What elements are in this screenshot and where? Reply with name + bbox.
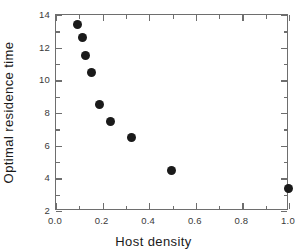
x-axis-tick-label: 0.0 — [48, 215, 62, 226]
x-axis-tick — [219, 206, 220, 210]
x-axis-tick-label: 1.0 — [281, 215, 295, 226]
x-axis-tick — [79, 206, 80, 210]
x-axis-tick-label: 0.8 — [234, 215, 248, 226]
y-axis-tick — [56, 48, 62, 49]
scatter-chart-figure: Optimal residence time Host density 0.00… — [0, 0, 307, 252]
x-axis-tick — [242, 203, 243, 209]
x-axis-tick-top — [289, 15, 290, 21]
y-axis-tick — [56, 129, 60, 130]
x-axis-tick-top — [149, 15, 150, 21]
y-axis-tick — [56, 15, 62, 16]
y-axis-tick-right — [281, 211, 287, 212]
x-axis-tick — [126, 206, 127, 210]
x-axis-tick-top — [173, 15, 174, 19]
y-axis-tick-label: 6 — [26, 139, 50, 150]
y-axis-tick — [56, 146, 62, 147]
y-axis-tick-right — [284, 129, 288, 130]
x-axis-tick — [289, 203, 290, 209]
x-axis-tick-top — [79, 15, 80, 19]
y-axis-tick-right — [281, 15, 287, 16]
y-axis-tick-right — [284, 31, 288, 32]
data-point — [81, 51, 90, 60]
data-point — [95, 100, 104, 109]
y-axis-tick-label: 12 — [26, 41, 50, 52]
y-axis-tick — [56, 113, 62, 114]
y-axis-tick-right — [284, 162, 288, 163]
x-axis-tick — [196, 203, 197, 209]
y-axis-label-container: Optimal residence time — [0, 0, 20, 224]
y-axis-tick-right — [284, 64, 288, 65]
data-point — [106, 117, 115, 126]
x-axis-tick-label: 0.2 — [95, 215, 109, 226]
y-axis-tick-label: 4 — [26, 172, 50, 183]
x-axis-tick — [266, 206, 267, 210]
y-axis-tick — [56, 64, 60, 65]
data-point — [78, 33, 87, 42]
y-axis-tick-right — [281, 113, 287, 114]
y-axis-tick — [56, 211, 62, 212]
y-axis-tick-label: 8 — [26, 107, 50, 118]
x-axis-tick — [56, 203, 57, 209]
plot-area — [55, 14, 288, 210]
x-axis-tick-label: 0.4 — [141, 215, 155, 226]
x-axis-tick-label: 0.6 — [188, 215, 202, 226]
y-axis-tick — [56, 195, 60, 196]
y-axis-tick — [56, 178, 62, 179]
y-axis-tick-right — [284, 97, 288, 98]
x-axis-tick — [149, 203, 150, 209]
y-axis-tick-right — [281, 48, 287, 49]
x-axis-tick-top — [242, 15, 243, 21]
x-axis-tick-top — [219, 15, 220, 19]
y-axis-tick — [56, 80, 62, 81]
y-axis-tick-label: 10 — [26, 74, 50, 85]
x-axis-tick-top — [103, 15, 104, 21]
y-axis-tick-right — [281, 80, 287, 81]
data-point — [284, 184, 293, 193]
x-axis-tick-top — [266, 15, 267, 19]
data-point — [167, 166, 176, 175]
data-point — [73, 20, 82, 29]
x-axis-tick — [103, 203, 104, 209]
y-axis-label: Optimal residence time — [2, 41, 17, 183]
x-axis-tick — [173, 206, 174, 210]
x-axis-tick-top — [126, 15, 127, 19]
y-axis-tick-label: 14 — [26, 9, 50, 20]
data-point — [127, 133, 136, 142]
x-axis-tick-top — [196, 15, 197, 21]
x-axis-label: Host density — [0, 234, 307, 249]
y-axis-tick-label: 2 — [26, 205, 50, 216]
y-axis-tick — [56, 162, 60, 163]
y-axis-tick-right — [281, 146, 287, 147]
y-axis-tick — [56, 31, 60, 32]
y-axis-tick — [56, 97, 60, 98]
data-point — [87, 68, 96, 77]
y-axis-tick-right — [284, 195, 288, 196]
y-axis-tick-right — [281, 178, 287, 179]
